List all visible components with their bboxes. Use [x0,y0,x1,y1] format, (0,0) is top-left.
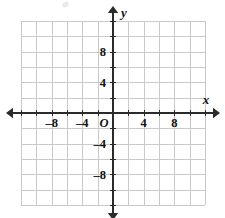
x-axis-arrow-left [6,108,13,118]
y-axis-arrow-down [108,213,118,218]
y-axis-tick-label: 8 [100,45,106,59]
y-axis-tick-label: –4 [93,137,107,151]
x-axis-tick-label: –8 [44,116,58,130]
x-axis-arrow-right [213,108,220,118]
origin-label: O [99,116,108,130]
y-axis-arrow-up [108,6,118,13]
y-axis-tick-label: 4 [100,76,107,90]
x-axis-label: x [202,92,210,107]
x-axis-tick-label: –4 [75,116,89,130]
coordinate-plane-figure: –8–44884–4–8 x y O [0,0,225,218]
axis-lines [6,6,220,218]
x-axis-tick-label: 4 [141,116,148,130]
coordinate-plane-canvas: –8–44884–4–8 x y O [0,0,225,218]
x-axis-tick-label: 8 [171,116,177,130]
y-axis-tick-label: –8 [93,168,107,182]
y-axis-label: y [119,5,127,20]
